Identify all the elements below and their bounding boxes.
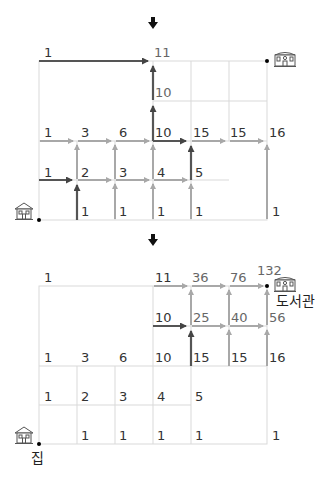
cell-value: 10 bbox=[155, 85, 172, 100]
cell-value: 2 bbox=[81, 389, 89, 404]
cell-value: 10 bbox=[155, 350, 172, 365]
cell-value: 1 bbox=[195, 428, 203, 443]
grid-path-diagram: 1 11 10 1 3 6 10 15 15 16 1 2 3 4 5 1 1 … bbox=[0, 0, 327, 480]
cell-value: 1 bbox=[272, 428, 280, 443]
bottom-panel: 1 11 36 76 132 10 25 40 56 1 3 6 10 15 1… bbox=[15, 263, 315, 466]
cell-value: 1 bbox=[195, 204, 203, 219]
cell-value: 4 bbox=[157, 389, 165, 404]
library-building-icon bbox=[274, 278, 296, 292]
cell-value: 1 bbox=[44, 350, 52, 365]
cell-value: 1 bbox=[44, 45, 52, 60]
cell-value: 1 bbox=[44, 125, 52, 140]
cell-value: 1 bbox=[44, 389, 52, 404]
cell-value: 56 bbox=[269, 310, 286, 325]
cell-value: 11 bbox=[155, 270, 172, 285]
down-arrow-icon bbox=[148, 234, 158, 246]
cell-value: 15 bbox=[193, 125, 210, 140]
cell-value: 1 bbox=[157, 204, 165, 219]
cell-value: 36 bbox=[192, 270, 209, 285]
cell-value: 1 bbox=[81, 428, 89, 443]
cell-value: 3 bbox=[119, 389, 127, 404]
cell-value: 76 bbox=[230, 270, 247, 285]
cell-value: 1 bbox=[119, 428, 127, 443]
cell-value: 10 bbox=[155, 310, 172, 325]
cell-value: 1 bbox=[119, 204, 127, 219]
cell-value: 1 bbox=[44, 165, 52, 180]
house-icon bbox=[15, 203, 33, 220]
top-panel: 1 11 10 1 3 6 10 15 15 16 1 2 3 4 5 1 1 … bbox=[15, 45, 296, 222]
cell-value: 3 bbox=[119, 165, 127, 180]
cell-value: 25 bbox=[193, 310, 210, 325]
cell-value: 16 bbox=[269, 125, 286, 140]
cell-value: 11 bbox=[154, 45, 171, 60]
cell-value: 1 bbox=[44, 270, 52, 285]
house-icon bbox=[15, 427, 33, 444]
cell-value: 15 bbox=[230, 125, 247, 140]
cell-value: 5 bbox=[195, 165, 203, 180]
cell-value: 132 bbox=[257, 263, 282, 278]
cell-value: 1 bbox=[272, 204, 280, 219]
cell-value: 15 bbox=[193, 350, 210, 365]
library-label: 도서관 bbox=[276, 293, 315, 309]
cell-value: 3 bbox=[81, 125, 89, 140]
cell-value: 5 bbox=[195, 389, 203, 404]
cell-value: 16 bbox=[269, 350, 286, 365]
home-label: 집 bbox=[31, 450, 44, 466]
cell-value: 4 bbox=[157, 165, 165, 180]
library-building-icon bbox=[274, 53, 296, 67]
cell-value: 2 bbox=[81, 165, 89, 180]
cell-value: 3 bbox=[81, 350, 89, 365]
down-arrow-icon bbox=[148, 17, 158, 29]
cell-value: 15 bbox=[231, 350, 248, 365]
cell-value: 10 bbox=[155, 125, 172, 140]
cell-value: 6 bbox=[119, 125, 127, 140]
cell-value: 1 bbox=[81, 204, 89, 219]
cell-value: 40 bbox=[231, 310, 248, 325]
cell-value: 1 bbox=[157, 428, 165, 443]
cell-value: 6 bbox=[119, 350, 127, 365]
